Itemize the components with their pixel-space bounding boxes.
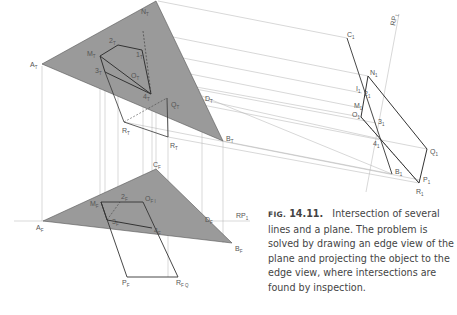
svg-text:RP1: RP1: [236, 212, 249, 221]
svg-text:PF: PF: [122, 279, 130, 288]
figure-prefix: FIG.: [268, 210, 286, 219]
figure-page: AT NT MT 2T 1T 3T OT 4T QT DT BT RT RT C…: [0, 0, 457, 315]
auxiliary-view: [347, 38, 427, 183]
labels-aux-view: C1 RP1 N1 I1 21 M1 O1 31 41 Q1 B1 P1 R1: [347, 12, 438, 196]
svg-text:31: 31: [378, 118, 385, 127]
svg-text:M1: M1: [354, 102, 363, 111]
plane-front-view: [43, 169, 232, 243]
figure-number: 14.11.: [289, 208, 323, 219]
svg-text:CF: CF: [153, 161, 161, 170]
svg-text:BF: BF: [235, 245, 243, 254]
svg-text:Q1: Q1: [430, 148, 438, 157]
svg-text:C1: C1: [347, 31, 355, 40]
svg-text:P1: P1: [423, 176, 431, 185]
plane-top-view: [42, 1, 223, 141]
svg-text:DT: DT: [205, 95, 213, 104]
svg-text:N1: N1: [370, 69, 378, 78]
svg-text:AT: AT: [30, 61, 38, 70]
svg-text:AF: AF: [36, 224, 44, 233]
svg-text:RT: RT: [122, 127, 130, 136]
svg-text:41: 41: [373, 140, 380, 149]
figure-caption: FIG. 14.11. Intersection of several line…: [268, 207, 457, 296]
svg-text:RT: RT: [170, 142, 178, 151]
svg-text:21: 21: [364, 90, 371, 99]
svg-text:O1: O1: [352, 111, 360, 120]
figure-caption-text: Intersection of several lines and a plan…: [268, 208, 454, 293]
svg-text:R1: R1: [416, 188, 424, 197]
svg-text:RF Q: RF Q: [176, 279, 189, 288]
